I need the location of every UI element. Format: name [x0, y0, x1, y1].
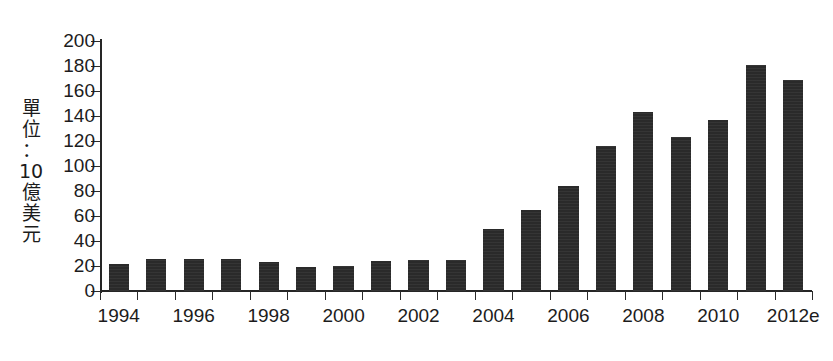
bar	[333, 266, 353, 291]
y-axis-tick-label: 80	[74, 181, 95, 201]
y-axis-tick-label: 160	[63, 81, 95, 101]
x-axis-tick-label: 2006	[547, 305, 589, 326]
x-axis-tick-mark	[250, 291, 251, 300]
plot-area: 200180160140120100806040200 199419961998…	[100, 41, 812, 291]
x-axis-tick-label: 2002	[397, 305, 439, 326]
x-axis-tick-mark	[325, 291, 326, 300]
x-axis-tick-mark	[362, 291, 363, 300]
x-axis-tick-label: 2012e	[767, 305, 820, 326]
x-axis-tick-label: 2004	[472, 305, 514, 326]
x-axis-tick-mark	[512, 291, 513, 300]
x-axis-tick-label: 1998	[247, 305, 289, 326]
bar	[558, 186, 578, 291]
x-axis-tick-label: 1994	[98, 305, 140, 326]
bar	[371, 261, 391, 291]
bar	[521, 210, 541, 291]
bar	[746, 65, 766, 291]
bar	[259, 262, 279, 291]
x-axis-tick-mark	[587, 291, 588, 300]
bar	[221, 259, 241, 292]
bar	[146, 259, 166, 292]
x-axis-tick-mark	[400, 291, 401, 300]
x-axis-tick-mark	[212, 291, 213, 300]
x-axis-tick-mark	[625, 291, 626, 300]
bar-chart-figure: 單 位 ： 10 億 美 元 2001801601401201008060402…	[0, 0, 833, 361]
x-axis-tick-mark	[475, 291, 476, 300]
y-axis-tick-label: 120	[63, 131, 95, 151]
y-axis-tick-label: 200	[63, 31, 95, 51]
bar	[184, 259, 204, 292]
x-axis-tick-mark	[812, 291, 813, 300]
x-axis-tick-mark	[437, 291, 438, 300]
x-axis-tick-mark	[287, 291, 288, 300]
bar	[109, 264, 129, 292]
y-axis-tick-label: 60	[74, 206, 95, 226]
bar	[783, 80, 803, 291]
y-axis-title: 單 位 ： 10 億 美 元	[14, 98, 48, 245]
bar	[483, 229, 503, 292]
bar	[446, 260, 466, 291]
x-axis-tick-mark	[662, 291, 663, 300]
y-axis-tick-label: 140	[63, 106, 95, 126]
x-axis-tick-label: 2008	[622, 305, 664, 326]
bar	[596, 146, 616, 291]
y-axis-tick-label: 180	[63, 56, 95, 76]
bar	[708, 120, 728, 291]
bar	[671, 137, 691, 291]
x-axis-tick-mark	[550, 291, 551, 300]
y-axis-tick-label: 40	[74, 231, 95, 251]
x-axis-tick-label: 2000	[322, 305, 364, 326]
x-axis-tick-mark	[137, 291, 138, 300]
x-axis-tick-mark	[737, 291, 738, 300]
x-axis-tick-mark	[700, 291, 701, 300]
x-axis-tick-label: 2010	[697, 305, 739, 326]
x-axis-tick-mark	[775, 291, 776, 300]
y-axis-tick-label: 20	[74, 256, 95, 276]
x-axis-tick-label: 1996	[173, 305, 215, 326]
y-axis-tick-label: 100	[63, 156, 95, 176]
bar	[408, 260, 428, 291]
x-axis-tick-mark	[175, 291, 176, 300]
bar	[296, 267, 316, 291]
bar	[633, 112, 653, 291]
y-axis-tick-label: 0	[84, 281, 95, 301]
x-axis-tick-mark	[100, 291, 101, 300]
